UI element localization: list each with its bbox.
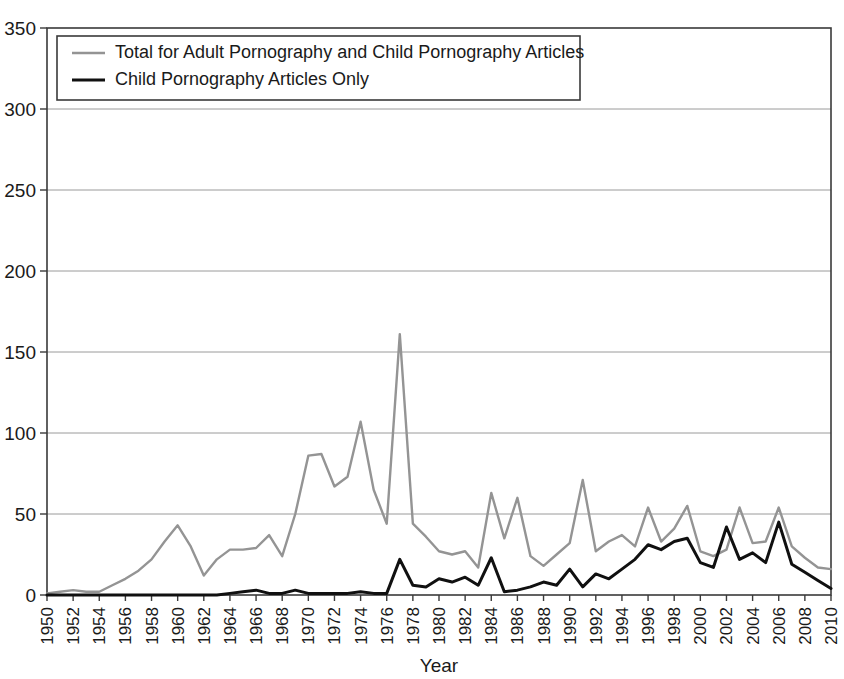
x-tick-label: 1996 <box>639 607 658 645</box>
x-tick-label: 1972 <box>325 607 344 645</box>
x-tick-label: 1964 <box>221 607 240 645</box>
x-tick-label: 1974 <box>352 607 371 645</box>
y-tick-label: 300 <box>4 99 36 120</box>
y-axis-labels: 050100150200250300350 <box>4 18 36 606</box>
series-line-total <box>47 334 831 593</box>
line-chart: 050100150200250300350 195019521954195619… <box>0 0 844 679</box>
y-tick-label: 0 <box>25 585 36 606</box>
y-tick-label: 250 <box>4 180 36 201</box>
y-tick-label: 350 <box>4 18 36 39</box>
x-tick-label: 1982 <box>456 607 475 645</box>
x-tick-label: 2002 <box>717 607 736 645</box>
y-tick-label: 200 <box>4 261 36 282</box>
y-tick-label: 50 <box>15 504 36 525</box>
legend-label-total: Total for Adult Pornography and Child Po… <box>115 42 584 62</box>
y-axis-ticks <box>40 28 47 595</box>
x-tick-label: 1978 <box>404 607 423 645</box>
x-tick-label: 1986 <box>508 607 527 645</box>
x-tick-label: 2004 <box>744 607 763 645</box>
x-tick-label: 1968 <box>273 607 292 645</box>
x-tick-label: 1956 <box>116 607 135 645</box>
x-tick-label: 2006 <box>770 607 789 645</box>
plot-frame <box>47 28 831 595</box>
x-tick-label: 1960 <box>169 607 188 645</box>
x-tick-label: 1994 <box>613 607 632 645</box>
x-tick-label: 1990 <box>561 607 580 645</box>
x-tick-label: 1988 <box>535 607 554 645</box>
chart-container: 050100150200250300350 195019521954195619… <box>0 0 844 679</box>
x-tick-label: 1970 <box>299 607 318 645</box>
x-tick-label: 1976 <box>378 607 397 645</box>
x-tick-label: 1958 <box>143 607 162 645</box>
x-tick-label: 1950 <box>38 607 57 645</box>
x-tick-label: 1998 <box>665 607 684 645</box>
x-tick-label: 1952 <box>64 607 83 645</box>
series-line-child <box>47 522 831 595</box>
x-tick-label: 2010 <box>822 607 841 645</box>
x-tick-label: 1984 <box>482 607 501 645</box>
gridlines <box>47 109 831 514</box>
x-tick-label: 1992 <box>587 607 606 645</box>
data-series-group <box>47 334 831 595</box>
x-tick-label: 1962 <box>195 607 214 645</box>
x-tick-label: 1954 <box>90 607 109 645</box>
plot-frame-group <box>47 28 831 595</box>
y-tick-label: 150 <box>4 342 36 363</box>
x-axis-labels: 1950195219541956195819601962196419661968… <box>38 607 841 645</box>
x-tick-label: 2000 <box>691 607 710 645</box>
x-tick-label: 1980 <box>430 607 449 645</box>
x-tick-label: 2008 <box>796 607 815 645</box>
x-axis-title: Year <box>420 655 459 676</box>
legend-label-child: Child Pornography Articles Only <box>115 69 369 89</box>
legend: Total for Adult Pornography and Child Po… <box>57 36 584 100</box>
x-tick-label: 1966 <box>247 607 266 645</box>
y-tick-label: 100 <box>4 423 36 444</box>
